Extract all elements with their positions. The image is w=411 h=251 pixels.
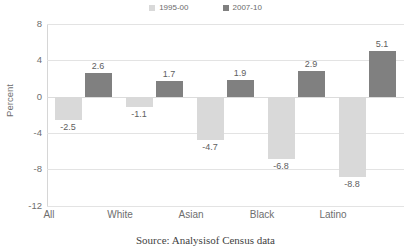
plot-area: -2.5 2.6 -1.1 1.7 -4.7 1.9 -6.8 2.9 -8.8…: [47, 24, 404, 206]
bar-asian-2007-10[interactable]: [227, 80, 254, 97]
gridline-m12: [47, 206, 404, 207]
bar-latino-2007-10[interactable]: [369, 51, 396, 97]
bar-label-latino-1995-00: -8.8: [332, 180, 372, 189]
bar-group-black: -6.8 2.9: [262, 24, 333, 206]
x-tick-all: All: [9, 210, 89, 220]
bar-all-1995-00[interactable]: [55, 97, 82, 120]
bar-label-white-1995-00: -1.1: [119, 110, 159, 119]
y-tick-0: 0: [8, 92, 42, 102]
x-tick-latino: Latino: [293, 210, 373, 220]
bar-latino-1995-00[interactable]: [339, 97, 366, 177]
y-tick-m8: -8: [8, 164, 42, 174]
bar-label-black-1995-00: -6.8: [261, 162, 301, 171]
legend-item-2007-10: 2007-10: [223, 4, 262, 12]
legend-item-1995-00: 1995-00: [149, 4, 188, 12]
source-note: Source: Analysisof Census data: [0, 234, 411, 246]
legend-swatch-2007-10: [223, 5, 229, 11]
bar-label-asian-1995-00: -4.7: [190, 143, 230, 152]
bar-group-asian: -4.7 1.9: [191, 24, 262, 206]
bar-white-1995-00[interactable]: [126, 97, 153, 107]
x-tick-asian: Asian: [151, 210, 231, 220]
legend-label-1995-00: 1995-00: [159, 4, 188, 12]
bar-label-all-2007-10: 2.6: [78, 62, 118, 71]
x-tick-black: Black: [222, 210, 302, 220]
bar-black-1995-00[interactable]: [268, 97, 295, 159]
bar-white-2007-10[interactable]: [156, 81, 183, 97]
bar-label-asian-2007-10: 1.9: [220, 69, 260, 78]
y-tick-8: 8: [8, 19, 42, 29]
bar-label-latino-2007-10: 5.1: [362, 40, 402, 49]
legend-label-2007-10: 2007-10: [233, 4, 262, 12]
bar-group-latino: -8.8 5.1: [333, 24, 404, 206]
bar-black-2007-10[interactable]: [298, 71, 325, 97]
bar-label-all-1995-00: -2.5: [48, 123, 88, 132]
bar-label-black-2007-10: 2.9: [291, 60, 331, 69]
bar-asian-1995-00[interactable]: [197, 97, 224, 140]
y-tick-4: 4: [8, 55, 42, 65]
legend-swatch-1995-00: [149, 5, 155, 11]
bar-all-2007-10[interactable]: [85, 73, 112, 97]
bar-group-white: -1.1 1.7: [120, 24, 191, 206]
x-tick-white: White: [80, 210, 160, 220]
bar-label-white-2007-10: 1.7: [149, 70, 189, 79]
y-tick-m4: -4: [8, 128, 42, 138]
chart-legend: 1995-00 2007-10: [0, 2, 411, 13]
bar-group-all: -2.5 2.6: [49, 24, 120, 206]
